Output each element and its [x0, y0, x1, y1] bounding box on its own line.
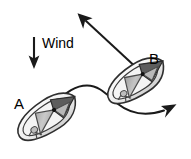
boat-a-label: A [14, 96, 24, 111]
wind-arrow-icon [29, 37, 40, 69]
sailboat-b [100, 50, 172, 112]
course-arrow-icon [78, 13, 141, 71]
boat-b-label: B [149, 51, 159, 66]
diagram-canvas [0, 0, 191, 159]
wind-label: Wind [42, 36, 74, 50]
sailing-diagram: Wind A B [0, 0, 191, 159]
